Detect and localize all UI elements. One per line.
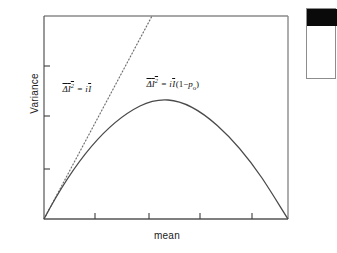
binomial-exponent: 2 xyxy=(155,77,158,84)
x-axis-ticks xyxy=(95,213,252,219)
binomial-lhs: ΔI2 xyxy=(146,77,159,89)
binomial-equals: = xyxy=(161,79,167,89)
poisson-lhs: ΔI2 xyxy=(62,82,75,94)
poisson-exponent: 2 xyxy=(71,82,74,89)
x-axis-label: mean xyxy=(132,230,202,241)
annotation-binomial-equation: ΔI2 = iI(1−po) xyxy=(146,77,199,91)
poisson-equals: = xyxy=(77,84,83,94)
y-axis-label: Variance xyxy=(29,66,40,122)
poisson-dotted-line xyxy=(44,16,152,219)
poisson-i-upper: I xyxy=(88,84,92,94)
adjacent-panel-crop xyxy=(306,8,336,79)
adjacent-panel-header-band xyxy=(307,9,337,26)
annotation-poisson-equation: ΔI2 = iI xyxy=(62,82,92,94)
binomial-variance-curve xyxy=(44,100,288,219)
plot-frame xyxy=(44,16,288,219)
y-axis-ticks xyxy=(44,66,50,169)
binomial-close-paren: ) xyxy=(196,79,199,89)
